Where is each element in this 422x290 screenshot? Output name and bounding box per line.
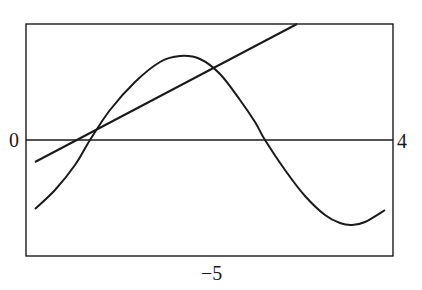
straight-line-series	[35, 24, 297, 162]
right-tick-label: 4	[397, 130, 407, 152]
left-tick-label: 0	[9, 129, 19, 151]
bottom-tick-label: −5	[201, 262, 222, 284]
chart: 0 4 −5	[0, 0, 422, 290]
